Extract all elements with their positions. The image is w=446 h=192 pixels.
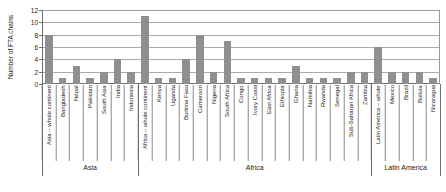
x-category-label: Africa – whole continent — [138, 85, 152, 161]
bar — [361, 72, 369, 84]
x-category-label: East Africa — [262, 85, 276, 161]
y-tick-label: 6 — [22, 44, 38, 51]
x-category-label: Namibia — [303, 85, 317, 161]
bar — [333, 78, 341, 84]
y-tick-label: 12 — [22, 7, 38, 14]
group-separator-line — [371, 84, 372, 176]
x-category-label: Ghana — [289, 85, 303, 161]
bar — [114, 59, 122, 84]
x-category-label: Mexico — [385, 85, 399, 161]
y-tick-mark — [39, 22, 42, 23]
bar — [416, 72, 424, 84]
bar — [86, 78, 94, 84]
x-category-label: Sub-Saharan Africa — [344, 85, 358, 161]
bar — [320, 78, 328, 84]
y-tick-label: 10 — [22, 19, 38, 26]
gridline — [43, 35, 439, 36]
y-tick-label: 8 — [22, 32, 38, 39]
bar — [265, 78, 273, 84]
bar — [429, 78, 437, 84]
bar — [278, 78, 286, 84]
x-category-label: Congo — [234, 85, 248, 161]
bar — [141, 16, 149, 84]
bar — [100, 72, 108, 84]
bar — [388, 72, 396, 84]
bar — [155, 78, 163, 84]
fta-chains-bar-chart: Number of FTA chains 024681012Asia – who… — [0, 0, 446, 192]
x-category-label: Bangladesh — [56, 85, 70, 161]
x-category-label: Nigeria — [207, 85, 221, 161]
bar — [292, 66, 300, 85]
x-category-label: Ivory Coast — [248, 85, 262, 161]
bar — [347, 72, 355, 84]
x-category-label: Rwanda — [316, 85, 330, 161]
bar — [251, 78, 259, 84]
y-tick-mark — [39, 72, 42, 73]
y-tick-mark — [39, 35, 42, 36]
x-category-label: Zambia — [358, 85, 372, 161]
y-tick-mark — [39, 47, 42, 48]
x-category-label: Kenya — [152, 85, 166, 161]
bar — [169, 78, 177, 84]
y-axis-title: Number of FTA chains — [7, 10, 15, 84]
x-category-label: Latin America – whole — [371, 85, 385, 161]
bar — [196, 35, 204, 84]
bar — [374, 47, 382, 84]
bar — [237, 78, 245, 84]
x-category-label: Ethiopia — [275, 85, 289, 161]
x-category-label: Nicaragua — [426, 85, 440, 161]
bar — [73, 66, 81, 85]
x-category-label: Burkina Faso — [179, 85, 193, 161]
x-group-label: Latin America — [371, 164, 440, 171]
x-category-label: Senegal — [330, 85, 344, 161]
x-category-label: Nepal — [69, 85, 83, 161]
gridline — [43, 22, 439, 23]
group-separator-line — [42, 84, 43, 176]
bar — [182, 59, 190, 84]
x-category-label: South Africa — [220, 85, 234, 161]
y-tick-label: 2 — [22, 69, 38, 76]
bar — [210, 72, 218, 84]
x-category-label: Brazil — [399, 85, 413, 161]
bar — [224, 41, 232, 84]
x-group-label: Asia — [42, 164, 138, 171]
x-category-label: Asia – whole continent — [42, 85, 56, 161]
x-category-label: India — [111, 85, 125, 161]
x-group-label: Africa — [138, 164, 371, 171]
y-tick-mark — [39, 59, 42, 60]
bar — [59, 78, 67, 84]
group-separator-line — [138, 84, 139, 176]
bar — [127, 72, 135, 84]
x-category-label: Bolivia — [413, 85, 427, 161]
x-category-label: Indonesia — [124, 85, 138, 161]
x-category-label: Cameroon — [193, 85, 207, 161]
bar — [402, 72, 410, 84]
bar — [306, 78, 314, 84]
x-category-label: South Asia — [97, 85, 111, 161]
x-category-label: Uganda — [166, 85, 180, 161]
bar — [45, 35, 53, 84]
y-tick-mark — [39, 10, 42, 11]
y-tick-label: 4 — [22, 56, 38, 63]
group-separator-line — [440, 84, 441, 176]
x-category-label: Pakistan — [83, 85, 97, 161]
y-tick-label: 0 — [22, 81, 38, 88]
